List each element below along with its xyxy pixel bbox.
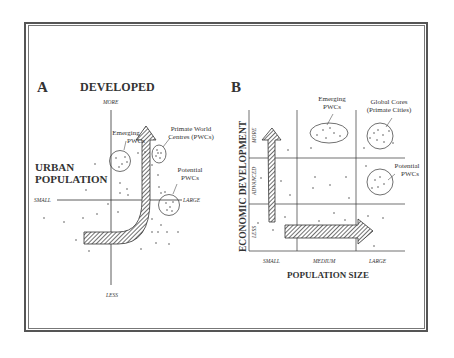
annot-potential-2: PWCs bbox=[181, 174, 199, 182]
axis-label-large: LARGE bbox=[182, 197, 201, 203]
potential-pwcs-circle bbox=[159, 195, 180, 216]
x-label-small: SMALL bbox=[263, 258, 280, 264]
annot-potential-1: Potential bbox=[178, 166, 203, 174]
panel-a-title: DEVELOPED bbox=[80, 80, 155, 94]
annot-emerging-2: PWCs bbox=[127, 137, 145, 145]
axis-label-small: SMALL bbox=[34, 197, 51, 203]
annot-global-2: (Primate Cities) bbox=[367, 106, 412, 114]
curved-growth-arrow bbox=[84, 126, 156, 244]
axis-label-less: LESS bbox=[105, 292, 118, 298]
y-label-more: MORE bbox=[251, 127, 257, 144]
x-label-large: LARGE bbox=[368, 258, 387, 264]
emerging-pwcs-circle bbox=[110, 151, 131, 172]
primate-pwcs-circle bbox=[152, 145, 166, 163]
y-axis-title: ECONOMIC DEVELOPMENT bbox=[238, 120, 248, 252]
global-cores-circle bbox=[367, 123, 393, 149]
y-label-less: LESS bbox=[251, 226, 257, 239]
annot-global-1: Global Cores bbox=[370, 98, 407, 106]
panel-a-letter: A bbox=[37, 79, 48, 95]
annot-b-potential-2: PWCs bbox=[401, 170, 419, 178]
x-axis-title: POPULATION SIZE bbox=[287, 270, 369, 280]
panel-b: B ECONOMIC DEVELOPMENT LESS ADVANCED MOR… bbox=[231, 79, 419, 280]
vertical-growth-arrow bbox=[262, 128, 281, 222]
annot-primate-2: Centres (PWCs) bbox=[168, 133, 214, 141]
axis-title-population: POPULATION bbox=[35, 173, 108, 185]
panel-a: A DEVELOPED MORE LESS SMALL LARGE URBAN … bbox=[34, 79, 215, 298]
annot-b-potential-1: Potential bbox=[395, 162, 420, 170]
emerging-pwcs-ellipse bbox=[310, 123, 348, 143]
annot-emerging-1: Emerging bbox=[112, 129, 140, 137]
horizontal-growth-arrow bbox=[285, 219, 373, 244]
figure-canvas: A DEVELOPED MORE LESS SMALL LARGE URBAN … bbox=[0, 0, 454, 358]
x-label-medium: MEDIUM bbox=[312, 258, 336, 264]
axis-label-more: MORE bbox=[102, 99, 119, 105]
axis-title-urban: URBAN bbox=[35, 161, 74, 173]
annot-primate-1: Primate World bbox=[171, 125, 212, 133]
annot-b-emerging-1: Emerging bbox=[318, 95, 346, 103]
annot-b-emerging-2: PWCs bbox=[323, 103, 341, 111]
y-label-advanced: ADVANCED bbox=[251, 167, 257, 196]
panel-b-letter: B bbox=[231, 79, 241, 95]
potential-pwcs-circle-b bbox=[367, 169, 393, 195]
